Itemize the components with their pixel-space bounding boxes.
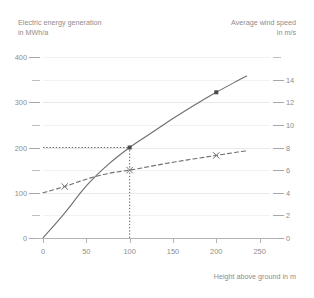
axis-tick — [32, 170, 40, 171]
axis-tick — [273, 148, 284, 149]
data-marker-square — [214, 90, 218, 94]
x-axis-tick-label: 150 — [167, 247, 179, 256]
axis-tick-label: 0 — [23, 234, 27, 243]
x-axis-tick — [86, 238, 87, 243]
x-axis-tick — [130, 238, 131, 243]
plot-area: 0100200300400 02468101214 05010015020025… — [43, 57, 270, 238]
axis-tick-label: 14 — [286, 75, 294, 84]
axis-tick — [273, 80, 284, 81]
series-line-right — [43, 151, 247, 193]
left-axis-title: Electric energy generation in MWh/a — [18, 18, 102, 37]
data-curves — [43, 57, 270, 238]
axis-tick — [273, 170, 284, 171]
x-axis-tick — [173, 238, 174, 243]
series-line-left — [43, 76, 247, 238]
x-axis-tick — [260, 238, 261, 243]
axis-tick — [273, 102, 284, 103]
x-axis-tick — [43, 238, 44, 243]
axis-tick — [273, 215, 284, 216]
axis-tick-label: 400 — [15, 53, 27, 62]
axis-tick-label: 6 — [286, 166, 290, 175]
chart-figure: Electric energy generation in MWh/a Aver… — [0, 0, 314, 298]
axis-tick — [273, 57, 281, 58]
axis-tick-label: 2 — [286, 211, 290, 220]
axis-tick-label: 0 — [286, 234, 290, 243]
axis-tick-label: 8 — [286, 143, 290, 152]
axis-tick — [29, 102, 40, 103]
x-axis-tick-label: 0 — [41, 247, 45, 256]
axis-tick-label: 4 — [286, 188, 290, 197]
right-axis-title: Average wind speed in m/s — [231, 18, 296, 37]
x-axis-title: Height above ground in m — [214, 272, 296, 281]
axis-tick-label: 100 — [15, 188, 27, 197]
x-axis-tick-label: 250 — [253, 247, 265, 256]
x-axis-line — [35, 238, 278, 239]
x-axis-tick-label: 50 — [82, 247, 90, 256]
x-axis-tick-label: 200 — [210, 247, 222, 256]
axis-tick — [29, 57, 40, 58]
axis-tick — [32, 125, 40, 126]
axis-tick — [32, 215, 40, 216]
axis-tick — [29, 148, 40, 149]
x-axis-tick-label: 100 — [123, 247, 135, 256]
axis-tick — [29, 193, 40, 194]
axis-tick-label: 200 — [15, 143, 27, 152]
axis-tick — [273, 193, 284, 194]
x-axis-tick — [216, 238, 217, 243]
axis-tick — [32, 80, 40, 81]
data-marker-square — [128, 146, 132, 150]
axis-tick-label: 300 — [15, 98, 27, 107]
axis-tick — [273, 125, 284, 126]
axis-tick-label: 12 — [286, 98, 294, 107]
axis-tick-label: 10 — [286, 120, 294, 129]
